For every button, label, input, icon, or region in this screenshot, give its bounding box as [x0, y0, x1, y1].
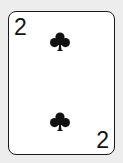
club-icon [48, 110, 72, 134]
card-rank-top-left: 2 [14, 16, 27, 39]
play-area: 2 2 [0, 0, 123, 163]
playing-card-two-of-clubs[interactable]: 2 2 [8, 11, 115, 155]
club-icon [48, 30, 72, 54]
card-rank-bottom-right: 2 [96, 129, 109, 152]
